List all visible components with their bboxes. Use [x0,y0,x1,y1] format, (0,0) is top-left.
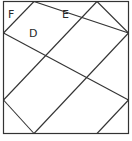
label-e: E [62,8,69,21]
label-f: F [8,8,14,21]
diag-line [4,2,98,101]
diag-line [34,2,129,34]
label-d: D [29,27,37,40]
diag-line [4,100,35,134]
outer-border [4,2,129,134]
diag-line [4,33,129,100]
diamond-grid-diagram: F E D [0,0,132,141]
diagonal-lines [4,2,129,134]
diag-line [34,33,129,134]
diag-line [97,100,129,134]
